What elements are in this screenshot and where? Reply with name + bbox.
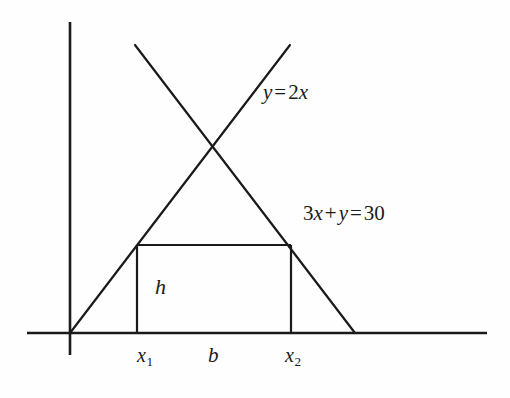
- label-rectangle-height: h: [155, 276, 166, 298]
- line-y-equals-2x: [70, 45, 290, 333]
- label-upper-equals: =: [272, 80, 288, 104]
- line-3x-plus-y-equals-30: [135, 45, 355, 333]
- label-height-text: h: [155, 274, 166, 299]
- label-line-y-equals-2x: y=2x: [263, 82, 308, 103]
- label-lower-coefficient: 3: [303, 201, 314, 225]
- label-x1: x1: [137, 345, 153, 368]
- label-lower-constant: 30: [364, 201, 385, 225]
- label-lower-plus: +: [323, 201, 339, 225]
- label-upper-coefficient: 2: [288, 80, 299, 104]
- label-line-3x-plus-y-equals-30: 3x+y=30: [303, 203, 385, 224]
- label-lower-second-var: y: [339, 201, 348, 225]
- label-lower-first-var: x: [314, 201, 323, 225]
- label-upper-lhs: y: [263, 80, 272, 104]
- geometry-figure: y=2x 3x+y=30 h x1 b x2: [0, 0, 510, 398]
- label-x2-subscript: 2: [294, 354, 301, 369]
- label-base-text: b: [208, 343, 219, 367]
- label-x1-subscript: 1: [146, 354, 153, 369]
- label-x2-var: x: [285, 344, 294, 366]
- label-x2: x2: [285, 345, 301, 368]
- diagram-canvas: [0, 0, 510, 398]
- label-lower-equals: =: [348, 201, 364, 225]
- label-x1-var: x: [137, 344, 146, 366]
- label-rectangle-base: b: [208, 345, 219, 366]
- label-upper-rhs: x: [299, 80, 308, 104]
